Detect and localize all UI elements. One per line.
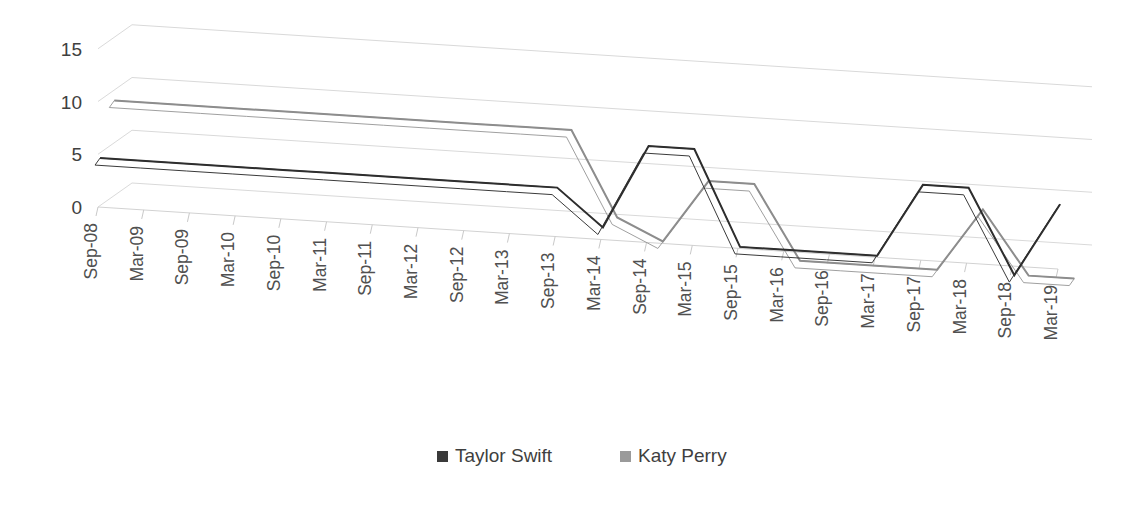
- x-tick-8: [462, 231, 464, 240]
- x-axis-tick-label: Mar-16: [767, 267, 787, 322]
- y-axis-tick-label: 0: [71, 197, 82, 218]
- chart-container: 151050 Sep-08Mar-09Sep-09Mar-10Sep-10Mar…: [0, 0, 1121, 505]
- axis-floor-front: [98, 207, 1058, 269]
- y-axis-tick-label: 15: [61, 39, 82, 60]
- x-axis-tick-label: Sep-17: [904, 276, 924, 332]
- legend-label-taylor-swift[interactable]: Taylor Swift: [455, 445, 553, 466]
- y-axis-tick-label: 10: [61, 92, 82, 113]
- x-tick-0: [96, 207, 98, 216]
- x-axis-tick-label: Mar-09: [127, 226, 147, 281]
- x-axis-tick-label: Sep-14: [630, 258, 650, 315]
- x-axis-tick-label: Mar-14: [584, 255, 604, 311]
- line-chart-3d: 151050 Sep-08Mar-09Sep-09Mar-10Sep-10Mar…: [0, 0, 1121, 505]
- x-tick-15: [782, 251, 784, 260]
- gridline-5: [132, 130, 1092, 192]
- x-tick-10: [553, 237, 555, 246]
- x-axis-labels: Sep-08Mar-09Sep-09Mar-10Sep-10Mar-11Sep-…: [81, 223, 1061, 340]
- x-axis-tick-label: Mar-11: [310, 238, 330, 292]
- x-axis-tick-label: Mar-15: [675, 261, 695, 316]
- x-tick-2: [187, 213, 189, 222]
- y-axis-tick-label: 5: [71, 144, 82, 165]
- gridline-side-15: [98, 25, 132, 49]
- x-axis-tick-label: Mar-12: [401, 244, 421, 299]
- x-tick-1: [142, 210, 144, 219]
- x-axis-tick-label: Sep-18: [995, 282, 1015, 338]
- x-axis-tick-label: Mar-13: [492, 250, 512, 305]
- legend-label-katy-perry[interactable]: Katy Perry: [638, 445, 727, 466]
- x-axis-tick-label: Mar-10: [218, 232, 238, 288]
- x-axis-tick-label: Mar-17: [858, 273, 878, 328]
- x-axis-tick-label: Sep-12: [447, 247, 467, 303]
- x-tick-7: [416, 228, 418, 237]
- x-tick-19: [965, 263, 967, 272]
- x-axis-tick-label: Sep-13: [538, 253, 558, 309]
- x-axis-tick-label: Mar-19: [1041, 285, 1061, 340]
- x-tick-12: [645, 242, 647, 251]
- chart-legend: Taylor SwiftKaty Perry: [437, 445, 727, 466]
- y-axis-labels: 151050: [61, 39, 82, 218]
- gridline-side-0: [98, 183, 132, 207]
- x-axis-tick-label: Sep-08: [81, 223, 101, 279]
- x-tick-6: [370, 225, 372, 234]
- x-tick-11: [599, 239, 601, 248]
- gridline-side-10: [98, 78, 132, 102]
- gridline-10: [132, 78, 1092, 140]
- x-tick-9: [507, 234, 509, 243]
- x-tick-5: [325, 222, 327, 231]
- x-tick-14: [736, 248, 738, 257]
- legend-marker-taylor-swift: [437, 451, 448, 462]
- x-axis-tick-label: Sep-15: [721, 264, 741, 320]
- series-line-taylor-swift[interactable]: [100, 146, 1060, 275]
- x-axis-tick-label: Sep-11: [355, 241, 375, 296]
- x-axis-tick-label: Sep-09: [172, 229, 192, 285]
- x-axis-tick-label: Sep-10: [264, 235, 284, 292]
- gridline-side-5: [98, 130, 132, 154]
- x-axis-tick-label: Mar-18: [950, 279, 970, 334]
- x-tick-13: [690, 245, 692, 254]
- legend-marker-katy-perry: [620, 451, 631, 462]
- x-axis-tick-label: Sep-16: [812, 270, 832, 326]
- x-tick-3: [233, 216, 235, 225]
- gridline-15: [132, 25, 1092, 87]
- x-tick-4: [279, 219, 281, 228]
